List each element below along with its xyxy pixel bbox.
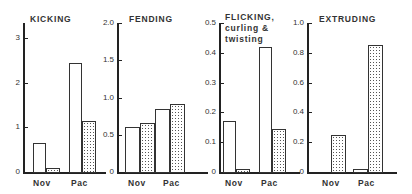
open-bar [353, 169, 368, 173]
y-tick-mark [221, 83, 224, 84]
y-tick-label: 0 [194, 167, 216, 176]
y-tick-label: 0.8 [282, 48, 304, 57]
y-axis [219, 23, 221, 173]
panel-title: FLICKING, [225, 12, 275, 23]
y-tick-label: 0.2 [282, 137, 304, 146]
stippled-bar [368, 45, 383, 173]
y-tick-mark [119, 98, 122, 99]
panel-title: KICKING [30, 14, 72, 25]
x-category-label: Pac [163, 178, 180, 188]
x-category-label: Pac [358, 178, 375, 188]
y-tick-mark [25, 83, 28, 84]
y-tick-label: 0.5 [194, 18, 216, 27]
panel-title: FENDING [129, 14, 173, 25]
x-category-label: Nov [225, 178, 243, 188]
y-tick-mark [221, 53, 224, 54]
stippled-bar [140, 123, 155, 173]
y-tick-mark [119, 60, 122, 61]
y-axis [307, 23, 309, 173]
y-tick-mark [309, 53, 312, 54]
open-bar [155, 109, 170, 173]
stippled-bar [170, 104, 185, 173]
open-bar [223, 121, 236, 173]
x-category-label: Nov [33, 178, 51, 188]
open-bar [33, 143, 46, 173]
y-tick-label: 2 [0, 78, 20, 87]
stippled-bar [46, 168, 60, 173]
y-tick-label: 0.2 [194, 107, 216, 116]
open-bar [125, 127, 140, 173]
y-tick-mark [309, 112, 312, 113]
y-tick-label: 0 [92, 167, 114, 176]
y-tick-mark [309, 23, 312, 24]
y-tick-label: 1.0 [282, 18, 304, 27]
y-tick-label: 1.0 [92, 93, 114, 102]
open-bar [69, 63, 82, 173]
y-tick-label: 2.0 [92, 18, 114, 27]
x-category-label: Nov [128, 178, 146, 188]
x-category-label: Pac [71, 178, 88, 188]
y-tick-mark [119, 23, 122, 24]
y-tick-label: 0.6 [282, 78, 304, 87]
stippled-bar [331, 135, 346, 173]
y-tick-mark [221, 23, 224, 24]
y-tick-label: 1.5 [92, 55, 114, 64]
y-tick-label: 0.1 [194, 137, 216, 146]
stippled-bar [236, 169, 250, 173]
y-tick-label: 0.5 [92, 130, 114, 139]
stippled-bar [82, 121, 96, 173]
y-tick-mark [25, 38, 28, 39]
open-bar [259, 47, 272, 173]
y-tick-mark [25, 127, 28, 128]
y-axis [23, 23, 25, 173]
y-tick-label: 0.3 [194, 78, 216, 87]
y-tick-mark [119, 172, 122, 173]
y-tick-mark [119, 135, 122, 136]
panel-title: EXTRUDING [319, 14, 376, 25]
y-tick-mark [25, 172, 28, 173]
y-tick-label: 0 [0, 167, 20, 176]
y-tick-mark [309, 142, 312, 143]
y-tick-mark [221, 112, 224, 113]
y-tick-label: 3 [0, 33, 20, 42]
y-tick-mark [309, 83, 312, 84]
x-category-label: Pac [261, 178, 278, 188]
y-tick-label: 0.4 [282, 107, 304, 116]
x-axis [307, 172, 397, 174]
y-tick-label: 0.4 [194, 48, 216, 57]
panel-title: curling & [225, 23, 269, 34]
y-tick-label: 1 [0, 122, 20, 131]
panel-title: twisting [225, 34, 264, 45]
y-tick-mark [309, 172, 312, 173]
y-tick-label: 0 [282, 167, 304, 176]
x-category-label: Nov [322, 178, 340, 188]
